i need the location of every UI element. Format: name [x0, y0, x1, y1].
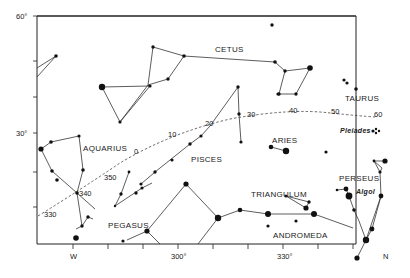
constellation-label-triangulum: TRIANGULUM: [251, 190, 307, 199]
constellation-label-perseus: PERSEUS: [339, 174, 379, 183]
x-label-n: N: [383, 252, 388, 261]
x-label-w: W: [70, 252, 78, 261]
constellation-label-pisces: PISCES: [191, 155, 222, 164]
constellation-label-taurus: TAURUS: [345, 94, 379, 103]
x-label-300: 300°: [171, 252, 187, 261]
chart-frame: [37, 16, 356, 244]
constellation-label-pegasus: PEGASUS: [108, 221, 149, 230]
ecliptic-label-10: 10: [168, 130, 176, 139]
ecliptic-label-60: 60: [374, 110, 382, 119]
ecliptic-label-330: 330: [44, 210, 57, 219]
ecliptic-label-0: 0: [134, 147, 138, 156]
y-label-30: 30°: [16, 129, 27, 138]
x-label-330: 330°: [277, 252, 293, 261]
constellation-label-aries: ARIES: [272, 136, 298, 145]
constellation-label-andromeda: ANDROMEDA: [273, 231, 328, 240]
star-chart: 60° 30° W 300° 330° N 330 340 350 0 10 2…: [0, 0, 410, 278]
object-label-algol: Algol: [355, 188, 376, 196]
x-axis-ticks: [73, 244, 353, 249]
y-axis-ticks: [33, 16, 37, 207]
pleiades-marker-icon: [371, 128, 380, 134]
ecliptic-label-50: 50: [331, 107, 339, 116]
y-label-60: 60°: [16, 12, 27, 21]
constellation-label-cetus: CETUS: [215, 45, 244, 54]
ecliptic-label-40: 40: [289, 106, 297, 115]
constellation-label-aquarius: AQUARIUS: [83, 144, 127, 153]
object-label-pleiades: Pleiades: [340, 127, 371, 134]
ecliptic-label-30: 30: [247, 110, 255, 119]
ecliptic-label-350: 350: [104, 173, 117, 182]
